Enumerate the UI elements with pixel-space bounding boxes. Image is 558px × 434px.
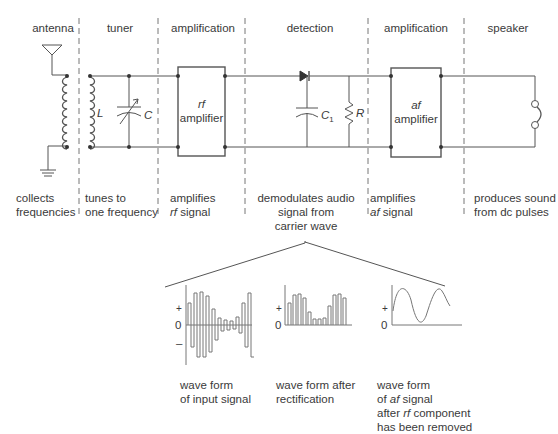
- inductor-label: L: [97, 106, 103, 120]
- af-waveform-caption: wave form of af signal after rf componen…: [377, 378, 472, 434]
- stage-title-rf-amplification: amplification: [165, 21, 241, 35]
- ground-icon: [40, 170, 56, 176]
- input-waveform-caption: wave formof input signal: [180, 378, 251, 406]
- af-amplifier-label: af amplifier: [391, 98, 441, 126]
- stage-desc-speaker: produces soundfrom dc pulses: [474, 191, 556, 219]
- input-axis-minus: –: [176, 336, 182, 350]
- input-waveform-plot: [186, 285, 254, 365]
- stage-title-speaker: speaker: [478, 21, 538, 35]
- junction-dots: [65, 74, 443, 149]
- input-axis-plus: +: [176, 302, 182, 316]
- inductor-icon: [90, 77, 95, 149]
- rectified-axis-zero: 0: [275, 318, 281, 332]
- stage-title-antenna: antenna: [30, 21, 76, 35]
- stage-desc-detection: demodulates audiosignal fromcarrier wave: [246, 191, 366, 233]
- af-waveform-plot: [392, 285, 462, 325]
- diode-icon: [300, 71, 309, 81]
- stage-desc-antenna: collectsfrequencies: [16, 191, 75, 219]
- primary-coil-icon: [48, 77, 67, 170]
- stage-title-tuner: tuner: [100, 21, 140, 35]
- stage-desc-tuner: tunes toone frequency: [85, 191, 158, 219]
- stage-desc-af-amplification: amplifies af signal: [370, 191, 415, 219]
- speaker-icon: [532, 101, 542, 129]
- detector-capacitor-icon: [296, 76, 318, 147]
- input-axis-zero: 0: [175, 318, 181, 332]
- af-axis-plus: +: [382, 302, 388, 316]
- rectified-axis-plus: +: [276, 302, 282, 316]
- resistor-icon: [345, 76, 353, 147]
- rectified-waveform-caption: wave form afterrectification: [276, 378, 355, 406]
- rectified-waveform-plot: [285, 285, 352, 325]
- expansion-line-left: [165, 241, 305, 287]
- variable-capacitor-icon: [117, 76, 141, 147]
- af-axis-zero: 0: [381, 318, 387, 332]
- stage-desc-rf-amplification: amplifies rf signal: [170, 191, 215, 219]
- detector-capacitor-label: C1: [321, 108, 334, 127]
- stage-title-af-amplification: amplification: [378, 21, 454, 35]
- resistor-label: R: [356, 106, 364, 120]
- stage-title-detection: detection: [275, 21, 345, 35]
- expansion-line-right: [305, 242, 445, 286]
- antenna-icon: [42, 45, 67, 75]
- capacitor-label: C: [144, 108, 152, 122]
- rf-amplifier-label: rf amplifier: [178, 97, 225, 125]
